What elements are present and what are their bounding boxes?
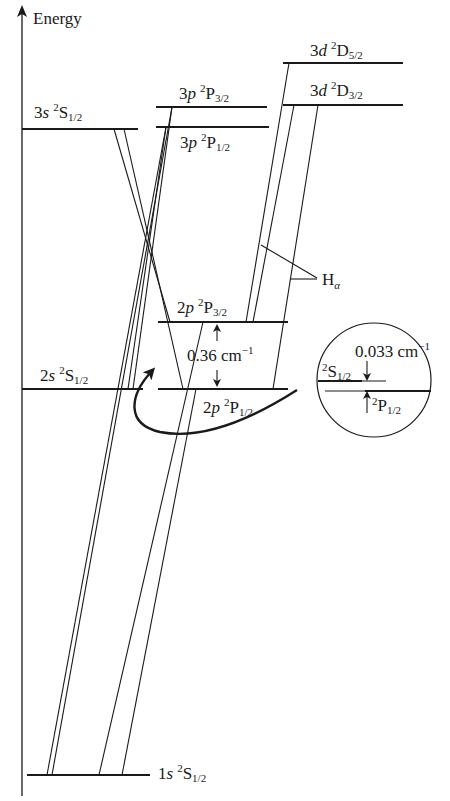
- h-alpha-annotation: Hα: [261, 245, 340, 291]
- transition-3p1/2-2s: [128, 127, 166, 389]
- transition-2p1/2-1s: [122, 389, 196, 775]
- level-labels: 3d2D5/2 3d2D3/2 3p2P3/2 3p2P1/2 3s2S1/2 …: [34, 39, 363, 784]
- label-3s-2S1/2: 3s2S1/2: [34, 101, 82, 123]
- label-1s-2S1/2: 1s2S1/2: [158, 762, 206, 784]
- label-3p-2P3/2: 3p2P3/2: [179, 82, 229, 104]
- hydrogen-energy-level-diagram: Energy Hα: [0, 0, 450, 801]
- label-2p-2P3/2: 2p2P3/2: [177, 296, 227, 318]
- energy-levels: [22, 63, 403, 775]
- inset-label-2P1/2: 2P1/2: [372, 395, 401, 416]
- energy-axis-label: Energy: [33, 9, 82, 28]
- label-2s-2S1/2: 2s2S1/2: [40, 364, 88, 386]
- transition-3s-2p1/2: [124, 129, 183, 389]
- transition-3d5/2-2p3/2: [246, 63, 289, 322]
- energy-axis: Energy: [17, 5, 82, 796]
- transition-3p3/2-2s: [133, 107, 172, 389]
- transition-3p3/2-1s: [52, 107, 172, 775]
- lamb-shift-inset: 0.033 cm−1 2S1/2 2P1/2: [317, 323, 431, 437]
- transitions: [47, 63, 318, 775]
- fine-structure-value: 0.36 cm−1: [187, 344, 254, 365]
- lamb-shift-value: 0.033 cm−1: [355, 340, 430, 361]
- label-3p-2P1/2: 3p2P1/2: [180, 131, 230, 153]
- transition-3p1/2-1s: [47, 127, 166, 775]
- h-alpha-label: Hα: [322, 270, 340, 291]
- label-2p-2P1/2: 2p2P1/2: [203, 396, 253, 418]
- transition-3d3/2-2p1/2: [273, 105, 318, 389]
- fine-structure-annotation: 0.36 cm−1: [187, 328, 254, 383]
- transition-3d3/2-2p3/2: [253, 105, 294, 322]
- inset-label-2S1/2: 2S1/2: [322, 361, 351, 382]
- label-3d-2D5/2: 3d2D5/2: [310, 39, 363, 61]
- h-alpha-pointer-line: [261, 245, 317, 278]
- label-3d-2D3/2: 3d2D3/2: [310, 79, 363, 101]
